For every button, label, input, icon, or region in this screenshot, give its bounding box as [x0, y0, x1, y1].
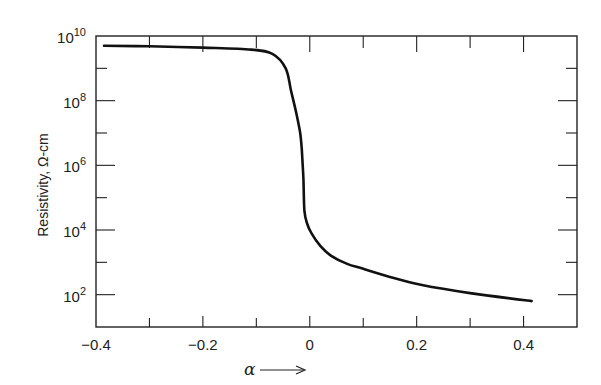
y-tick-labels: 1021041061081010	[57, 26, 86, 305]
x-tick-label: −0.4	[81, 336, 111, 353]
axis-ticks	[96, 36, 577, 327]
resistivity-chart: −0.4−0.200.20.4 1021041061081010 Resisti…	[0, 0, 601, 385]
plot-border	[96, 36, 577, 327]
y-tick-label: 102	[63, 285, 86, 305]
x-axis-label: α	[244, 359, 305, 379]
y-tick-label: 106	[63, 155, 86, 175]
x-tick-label: 0.4	[513, 336, 534, 353]
y-tick-label: 1010	[57, 26, 86, 46]
y-axis-label: Resistivity, Ω-cm	[35, 133, 51, 237]
plot-frame	[96, 36, 577, 327]
x-tick-label: 0	[306, 336, 314, 353]
x-tick-label: 0.2	[406, 336, 427, 353]
x-tick-label: −0.2	[188, 336, 218, 353]
alpha-symbol: α	[244, 359, 256, 379]
y-tick-label: 104	[63, 220, 86, 240]
resistivity-curve	[104, 46, 532, 301]
x-tick-labels: −0.4−0.200.20.4	[81, 336, 534, 353]
y-tick-label: 108	[63, 91, 86, 111]
